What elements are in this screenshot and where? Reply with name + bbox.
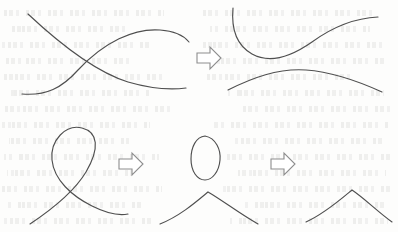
smoothed-curve-upper [233, 8, 378, 58]
remaining-arch-curve [306, 190, 392, 222]
smoothed-curves-panel [228, 8, 382, 92]
bottom-row-group [30, 127, 392, 224]
smoothed-curve-lower [228, 70, 382, 92]
block-arrow-right-icon [119, 153, 143, 175]
self-crossing-loop-panel [30, 127, 128, 224]
curve-smoothing-figure [0, 0, 398, 232]
block-arrow-right-icon [197, 47, 221, 69]
curve-drawing-layer [0, 0, 398, 232]
detached-oval-and-arch-panel [160, 136, 258, 224]
crossing-curve-a [28, 14, 186, 89]
top-row-group [22, 8, 382, 94]
crossing-curve-b [22, 30, 189, 94]
detached-oval-curve [191, 136, 220, 180]
arch-curve [160, 192, 258, 224]
arch-only-panel [306, 190, 392, 222]
block-arrow-right-icon [271, 153, 295, 175]
crossing-curves-panel [22, 14, 189, 94]
transform-arrow-bottom-left[interactable] [119, 153, 143, 175]
self-crossing-loop-curve [30, 127, 128, 224]
transform-arrow-top[interactable] [197, 47, 221, 69]
transform-arrow-bottom-right[interactable] [271, 153, 295, 175]
